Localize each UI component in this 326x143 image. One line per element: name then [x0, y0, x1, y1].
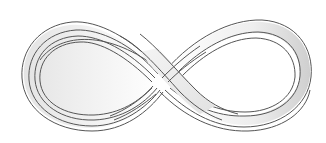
infinity-ribbon-icon: [0, 0, 326, 143]
illustration-canvas: Infinity symbol drawn as a twisted ribbo…: [0, 0, 326, 143]
ribbon-group: [22, 20, 311, 131]
